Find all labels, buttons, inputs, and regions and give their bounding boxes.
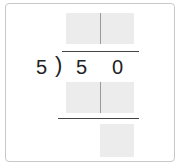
quotient-ones-input-box[interactable] [101,13,134,44]
remainder-input-box[interactable] [100,124,134,157]
product-ones-input-box[interactable] [101,82,134,113]
divisor: 5 [36,57,47,77]
division-bracket: ) [55,54,62,76]
quotient-box-divider [100,13,101,44]
dividend-ones-digit: 0 [112,57,123,77]
product-tens-input-box[interactable] [66,82,100,113]
division-bar [62,51,139,52]
product-box-divider [100,82,101,113]
subtraction-line [58,118,139,119]
dividend-tens-digit: 5 [76,57,87,77]
quotient-tens-input-box[interactable] [66,13,100,44]
